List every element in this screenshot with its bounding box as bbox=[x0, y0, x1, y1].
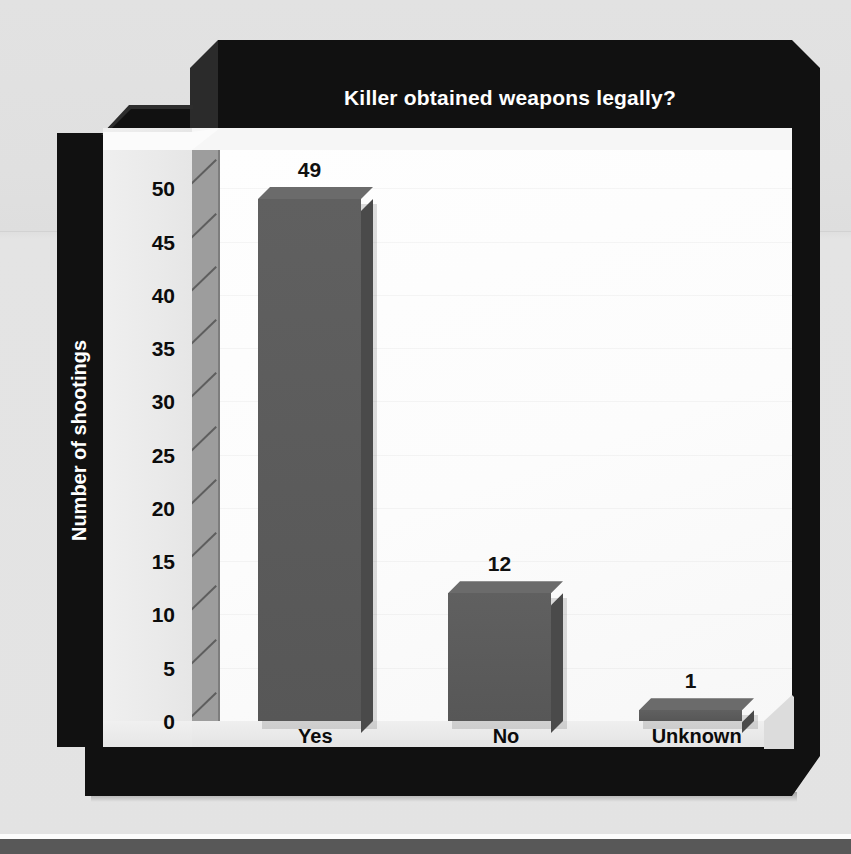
y-axis-wall-face bbox=[103, 128, 192, 747]
y-axis-depth-tick bbox=[192, 479, 217, 510]
y-axis-tick-label: 45 bbox=[103, 231, 187, 252]
x-axis-tick-label: Yes bbox=[220, 726, 411, 746]
y-axis-depth-tick bbox=[192, 213, 217, 244]
y-axis-tick-label: 0 bbox=[103, 711, 187, 732]
x-axis-tick-label: No bbox=[411, 726, 602, 746]
bar-3d-top bbox=[258, 187, 373, 199]
y-axis-tick-label: 25 bbox=[103, 444, 187, 465]
x-axis-tick-label: Unknown bbox=[601, 726, 792, 746]
y-axis-depth-tick bbox=[192, 426, 217, 457]
y-axis-wall-edge bbox=[218, 150, 220, 721]
bar-3d-side bbox=[551, 593, 563, 733]
y-axis-tick-label: 10 bbox=[103, 604, 187, 625]
y-axis-tick-label: 35 bbox=[103, 338, 187, 359]
y-axis-depth-tick bbox=[192, 532, 217, 563]
title-slab-bevel bbox=[190, 40, 220, 130]
y-axis-depth-tick bbox=[192, 159, 217, 190]
y-axis-tick-label: 20 bbox=[103, 497, 187, 518]
footer-band bbox=[0, 839, 851, 854]
y-axis-tick-label: 15 bbox=[103, 551, 187, 572]
y-axis-tick-label: 40 bbox=[103, 284, 187, 305]
y-axis-tick-label: 30 bbox=[103, 391, 187, 412]
bar-value-label: 12 bbox=[428, 553, 571, 574]
bar-3d-top bbox=[639, 698, 754, 710]
bar-no[interactable] bbox=[448, 593, 551, 721]
bar-chart-figure: Killer obtained weapons legally? Number … bbox=[57, 40, 820, 796]
bar-value-label: 1 bbox=[619, 670, 762, 691]
y-axis-depth-tick bbox=[192, 639, 217, 670]
y-axis-wall-depth-face bbox=[192, 150, 220, 747]
y-axis-depth-tick bbox=[192, 586, 217, 617]
bar-unknown[interactable] bbox=[639, 710, 742, 721]
y-axis-depth-tick bbox=[192, 266, 217, 297]
y-axis-depth-tick bbox=[192, 373, 217, 404]
bar-yes[interactable] bbox=[258, 199, 361, 721]
y-axis-depth-tick bbox=[192, 319, 217, 350]
chart-title: Killer obtained weapons legally? bbox=[220, 86, 800, 110]
bar-value-label: 49 bbox=[238, 159, 381, 180]
y-axis-tick-label: 5 bbox=[103, 657, 187, 678]
page-root: Killer obtained weapons legally? Number … bbox=[0, 0, 851, 854]
bar-3d-side bbox=[361, 199, 373, 733]
y-axis-depth-tick bbox=[192, 692, 217, 723]
y-axis-title-slab: Number of shootings bbox=[57, 133, 103, 747]
bar-3d-top bbox=[448, 581, 563, 593]
y-axis-tick-label: 50 bbox=[103, 178, 187, 199]
y-axis-title: Number of shootings bbox=[69, 339, 92, 540]
